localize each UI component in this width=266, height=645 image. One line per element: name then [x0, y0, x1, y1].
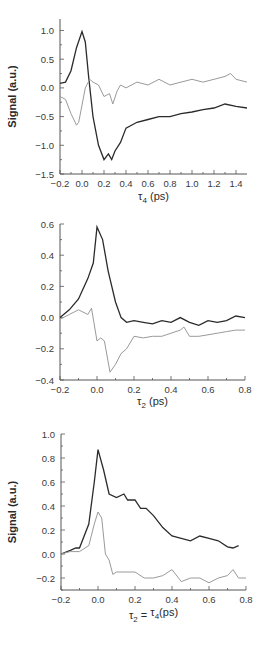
dark-trace	[61, 450, 239, 554]
x-axis-label: τ2 (ps)	[137, 395, 168, 410]
x-tick-label: 1.0	[185, 178, 198, 189]
x-tick-label: 0.2	[128, 594, 141, 605]
chart-tau4: −0.20.00.20.40.60.81.01.21.41.00.50.0−0.…	[6, 19, 247, 205]
x-tick-label: 0.8	[163, 178, 176, 189]
light-trace	[60, 308, 245, 372]
x-tick-label: 0.8	[239, 594, 252, 605]
x-tick-label: 0.8	[238, 384, 251, 395]
x-tick-label: 0.2	[127, 384, 140, 395]
y-tick-label: −1.0	[35, 140, 54, 151]
y-axis-label: Signal (a.u.)	[6, 65, 18, 128]
x-tick-label: 0.2	[97, 178, 110, 189]
dark-trace	[60, 32, 247, 160]
x-tick-label: −0.2	[51, 178, 70, 189]
y-tick-label: 0.4	[42, 501, 55, 512]
y-tick-label: 0.0	[41, 82, 54, 93]
y-tick-label: −0.2	[35, 343, 54, 354]
y-tick-label: 0.6	[42, 477, 55, 488]
y-tick-label: −0.4	[35, 375, 54, 386]
y-tick-label: 1.0	[42, 429, 55, 440]
chart-tau2-eq-tau4: −0.20.00.20.40.60.81.00.80.60.40.20.0−0.…	[6, 429, 253, 625]
x-tick-label: 1.4	[229, 178, 242, 189]
x-tick-label: 0.4	[119, 178, 132, 189]
x-axis-label: τ2 = τ4(ps)	[129, 606, 178, 624]
y-tick-label: 0.2	[42, 525, 55, 536]
y-tick-label: 0.4	[41, 250, 54, 261]
y-tick-label: 0.5	[41, 54, 54, 65]
x-tick-label: 0.6	[141, 178, 154, 189]
y-axis-label: Signal (a.u.)	[6, 480, 18, 543]
x-tick-label: 0.4	[164, 384, 177, 395]
y-tick-label: −0.5	[35, 111, 54, 122]
axis-lines	[60, 224, 245, 380]
x-tick-label: 0.6	[201, 384, 214, 395]
x-axis-label: τ4 (ps)	[138, 190, 169, 205]
x-tick-label: 0.0	[91, 594, 104, 605]
axis-lines	[60, 19, 247, 174]
y-tick-label: −0.2	[36, 573, 55, 584]
figure: −0.20.00.20.40.60.81.01.21.41.00.50.0−0.…	[0, 0, 266, 645]
axis-lines	[61, 434, 246, 590]
y-tick-label: −1.5	[35, 169, 54, 180]
x-tick-label: −0.2	[51, 384, 70, 395]
y-tick-label: 0.8	[42, 453, 55, 464]
x-tick-label: 1.2	[207, 178, 220, 189]
chart-tau2: −0.20.00.20.40.60.80.60.40.20.0−0.2−0.4τ…	[35, 219, 251, 411]
y-tick-label: 0.6	[41, 219, 54, 230]
x-tick-label: 0.0	[75, 178, 88, 189]
x-tick-label: 0.6	[202, 594, 215, 605]
y-tick-label: 0.0	[41, 312, 54, 323]
x-tick-label: 0.4	[165, 594, 178, 605]
dark-trace	[60, 227, 245, 325]
y-tick-label: 0.2	[41, 281, 54, 292]
y-tick-label: 0.0	[42, 549, 55, 560]
y-tick-label: 1.0	[41, 25, 54, 36]
x-tick-label: −0.2	[52, 594, 71, 605]
x-tick-label: 0.0	[90, 384, 103, 395]
